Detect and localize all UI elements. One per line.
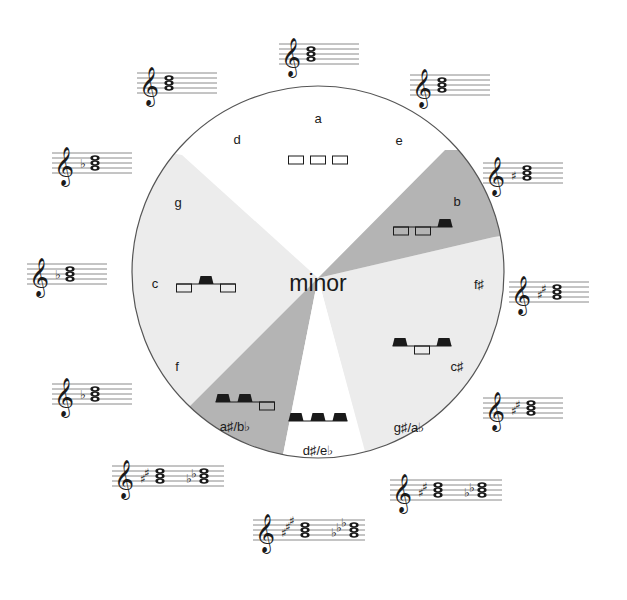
treble-clef-icon: 𝄞 <box>54 145 74 187</box>
staff-g-minor: 𝄞♭ <box>52 145 132 187</box>
key-label: e <box>395 133 402 148</box>
treble-clef-icon: 𝄞 <box>139 65 159 107</box>
staff-g-sharp-minor: 𝄞♯♯♭♭ <box>390 472 502 514</box>
treble-clef-icon: 𝄞 <box>281 36 301 78</box>
black-key <box>437 338 452 346</box>
flat-icon: ♭ <box>80 388 86 402</box>
staff-f-sharp-minor: 𝄞♯♯ <box>509 274 589 316</box>
staff-e-minor: 𝄞 <box>410 67 490 109</box>
key-label: c <box>152 276 159 291</box>
flat-icon: ♭ <box>469 481 475 495</box>
flat-icon: ♭ <box>80 157 86 171</box>
black-key <box>438 219 453 227</box>
center-title: minor <box>289 270 347 297</box>
sharp-icon: ♯ <box>541 282 547 296</box>
flat-icon: ♭ <box>55 268 61 282</box>
sharp-icon: ♯ <box>144 466 150 480</box>
staff-c-sharp-minor: 𝄞♯♯ <box>483 390 563 432</box>
treble-clef-icon: 𝄞 <box>485 390 505 432</box>
staff-a-minor: 𝄞 <box>279 36 359 78</box>
sharp-icon: ♯ <box>422 480 428 494</box>
key-label: b <box>453 194 460 209</box>
key-label: d <box>233 132 240 147</box>
black-key <box>393 338 408 346</box>
key-label: d♯/e♭ <box>303 443 334 458</box>
black-key <box>199 276 214 284</box>
staff-a-sharp-minor: 𝄞♯♯♭♭ <box>112 458 224 500</box>
key-label: c♯ <box>451 359 464 374</box>
treble-clef-icon: 𝄞 <box>54 376 74 418</box>
treble-clef-icon: 𝄞 <box>485 155 505 197</box>
sharp-icon: ♯ <box>289 514 295 528</box>
black-key <box>333 413 348 421</box>
black-key <box>311 413 326 421</box>
black-key <box>289 413 304 421</box>
key-label: g♯/a♭ <box>394 420 425 435</box>
flat-icon: ♭ <box>191 467 197 481</box>
key-label: g <box>174 195 181 210</box>
black-key <box>216 394 231 402</box>
staff-d-minor: 𝄞 <box>137 65 217 107</box>
treble-clef-icon: 𝄞 <box>29 256 49 298</box>
treble-clef-icon: 𝄞 <box>412 67 432 109</box>
key-label: a♯/b♭ <box>220 419 251 434</box>
treble-clef-icon: 𝄞 <box>392 472 412 514</box>
key-pattern-d-sharp <box>289 413 348 421</box>
key-label: f♯ <box>474 277 484 292</box>
circle-of-fifths-minor-diagram: 𝄞 𝄞𝄞𝄞♯𝄞♯♯𝄞♯♯𝄞♯♯♭♭𝄞♯♯♯♭♭♭𝄞♯♯♭♭𝄞♭𝄞♭ <box>0 0 627 600</box>
flat-icon: ♭ <box>341 516 347 530</box>
treble-clef-icon: 𝄞 <box>255 512 275 554</box>
treble-clef-icon: 𝄞 <box>114 458 134 500</box>
diagram-canvas: 𝄞 𝄞𝄞𝄞♯𝄞♯♯𝄞♯♯𝄞♯♯♭♭𝄞♯♯♯♭♭♭𝄞♯♯♭♭𝄞♭𝄞♭ <box>0 0 627 600</box>
sharp-icon: ♯ <box>511 169 517 183</box>
staff-c-minor: 𝄞♭ <box>27 256 107 298</box>
key-label: f <box>175 359 179 374</box>
key-label: a <box>314 111 321 126</box>
treble-clef-icon: 𝄞 <box>511 274 531 316</box>
staff-b-minor: 𝄞♯ <box>483 155 563 197</box>
sharp-icon: ♯ <box>515 398 521 412</box>
black-key <box>238 394 253 402</box>
staff-f-minor: 𝄞♭ <box>52 376 132 418</box>
staff-d-sharp-minor: 𝄞♯♯♯♭♭♭ <box>253 512 365 554</box>
